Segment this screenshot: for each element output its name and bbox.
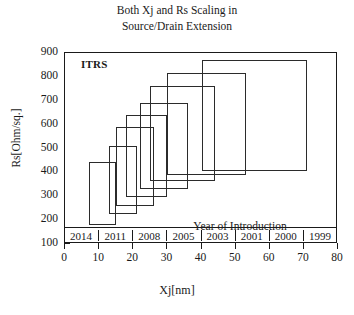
- year-cell-2003: 2003: [201, 228, 235, 243]
- x-tick-label: 70: [288, 250, 318, 264]
- y-tick-label: 700: [22, 94, 58, 106]
- year-cell-2005: 2005: [166, 228, 200, 243]
- x-tick-mark: [201, 243, 202, 249]
- year-cell-2001: 2001: [235, 228, 269, 243]
- x-tick-mark: [166, 243, 167, 249]
- chart-title-line-2: Source/Drain Extension: [0, 18, 354, 34]
- x-tick-mark: [64, 243, 65, 249]
- x-tick-label: 80: [322, 250, 352, 264]
- x-tick-mark: [132, 243, 133, 249]
- y-tick-label: 500: [22, 142, 58, 154]
- chart-title-line-1: Both Xj and Rs Scaling in: [0, 2, 354, 18]
- x-tick-mark: [337, 243, 338, 249]
- y-tick-label: 100: [22, 237, 58, 249]
- y-tick-label: 800: [22, 70, 58, 82]
- data-box-1999: [202, 60, 308, 171]
- year-cell-2008: 2008: [132, 228, 166, 243]
- y-tick-label: 300: [22, 189, 58, 201]
- chart-container: Both Xj and Rs Scaling in Source/Drain E…: [0, 0, 354, 315]
- x-axis-label: Xj[nm]: [0, 283, 354, 298]
- x-tick-mark: [303, 243, 304, 249]
- y-tick-label: 600: [22, 118, 58, 130]
- x-tick-label: 20: [117, 250, 147, 264]
- year-cell-2011: 2011: [98, 228, 132, 243]
- year-cell-2014: 2014: [64, 228, 98, 243]
- annotation-itrs: ITRS: [81, 58, 107, 70]
- x-tick-label: 40: [186, 250, 216, 264]
- x-tick-mark: [269, 243, 270, 249]
- y-tick-label: 400: [22, 165, 58, 177]
- y-axis-label: Rs[Ohm/sq.]: [10, 78, 22, 198]
- year-cell-1999: 1999: [303, 228, 337, 243]
- x-tick-label: 50: [220, 250, 250, 264]
- year-cell-2000: 2000: [269, 228, 303, 243]
- year-of-introduction-band: 20142011200820052003200120001999: [64, 227, 337, 243]
- y-tick-label: 200: [22, 213, 58, 225]
- x-tick-label: 30: [151, 250, 181, 264]
- plot-area: [64, 52, 337, 243]
- x-tick-mark: [98, 243, 99, 249]
- x-tick-label: 10: [83, 250, 113, 264]
- chart-title: Both Xj and Rs Scaling in Source/Drain E…: [0, 2, 354, 34]
- x-tick-label: 0: [49, 250, 79, 264]
- x-tick-label: 60: [254, 250, 284, 264]
- x-tick-mark: [235, 243, 236, 249]
- y-tick-label: 900: [22, 46, 58, 58]
